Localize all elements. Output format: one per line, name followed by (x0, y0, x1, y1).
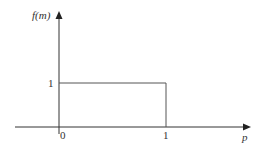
y-axis-arrow-icon (56, 11, 63, 19)
x-axis-arrow-icon (243, 124, 251, 131)
x-axis-label: p (241, 131, 248, 143)
y-axis-label: f(m) (32, 9, 51, 22)
function-line (59, 83, 166, 127)
origin-label: 0 (60, 129, 66, 141)
x-tick-1-label: 1 (163, 129, 169, 141)
y-tick-1-label: 1 (48, 77, 54, 89)
uniform-distribution-chart: f(m) 1 0 1 p (0, 0, 261, 148)
